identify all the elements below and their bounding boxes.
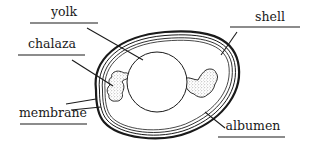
label-yolk: yolk — [46, 6, 82, 19]
label-chalaza: chalaza — [26, 38, 78, 51]
yolk-leader — [87, 28, 143, 60]
label-membrane: membrane — [18, 107, 88, 120]
chalaza-left — [107, 71, 129, 101]
albumen-leader — [205, 112, 225, 128]
chalaza-right — [185, 69, 217, 97]
label-albumen: albumen — [224, 120, 282, 133]
membrane-leader-1 — [66, 99, 96, 104]
label-shell: shell — [250, 11, 290, 24]
yolk-circle — [127, 52, 187, 112]
